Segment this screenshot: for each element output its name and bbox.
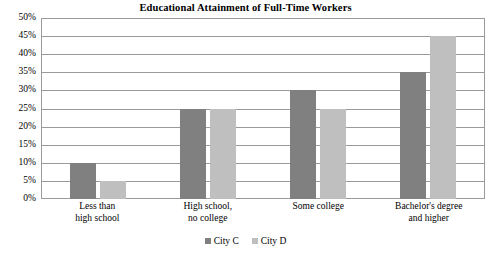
plot-area xyxy=(41,18,485,199)
bar-city-c[interactable] xyxy=(400,72,426,199)
category-label: Less thanhigh school xyxy=(42,201,153,224)
chart-title: Educational Attainment of Full-Time Work… xyxy=(0,2,491,13)
bar-group xyxy=(263,18,373,199)
legend-label: City D xyxy=(261,236,287,246)
y-axis-tick-label: 20% xyxy=(19,122,36,132)
bar-city-d[interactable] xyxy=(210,109,236,200)
category-label: Bachelor's degreeand higher xyxy=(374,201,485,224)
category-label-line: and higher xyxy=(374,213,485,225)
y-axis-tick-label: 40% xyxy=(19,49,36,59)
bar-group xyxy=(43,18,153,199)
category-label-line: Less than xyxy=(42,201,153,213)
y-axis-tick-label: 5% xyxy=(23,176,36,186)
category-label: High school,no college xyxy=(153,201,264,224)
y-axis-tick-label: 50% xyxy=(19,13,36,23)
category-label: Some college xyxy=(263,201,374,224)
legend-item-city-d[interactable]: City D xyxy=(252,236,287,246)
y-axis-tick-label: 25% xyxy=(19,104,36,114)
bar-city-d[interactable] xyxy=(100,181,126,199)
bar-city-d[interactable] xyxy=(320,109,346,200)
y-axis-labels: 50%45%40%35%30%25%20%15%10%5%0% xyxy=(0,18,36,199)
x-axis-category-labels: Less thanhigh schoolHigh school,no colle… xyxy=(42,201,484,224)
bar-city-c[interactable] xyxy=(70,163,96,199)
bar-groups xyxy=(43,18,483,199)
chart-container: Educational Attainment of Full-Time Work… xyxy=(0,0,491,258)
legend-swatch-icon xyxy=(252,238,258,244)
bar-city-c[interactable] xyxy=(180,109,206,200)
category-label-line: Bachelor's degree xyxy=(374,201,485,213)
y-axis-tick-label: 15% xyxy=(19,140,36,150)
bar-group xyxy=(153,18,263,199)
bar-city-c[interactable] xyxy=(290,90,316,199)
category-label-line: High school, xyxy=(153,201,264,213)
category-label-line: high school xyxy=(42,213,153,225)
legend-item-city-c[interactable]: City C xyxy=(205,236,239,246)
y-axis-tick-label: 30% xyxy=(19,86,36,96)
legend-label: City C xyxy=(214,236,239,246)
y-axis-tick-label: 45% xyxy=(19,31,36,41)
y-axis-tick-label: 0% xyxy=(23,194,36,204)
chart-legend: City CCity D xyxy=(0,236,491,246)
y-axis-tick-label: 10% xyxy=(19,158,36,168)
legend-swatch-icon xyxy=(205,238,211,244)
bar-city-d[interactable] xyxy=(430,36,456,199)
bar-group xyxy=(373,18,483,199)
y-axis-tick-label: 35% xyxy=(19,68,36,78)
plot-area-wrapper xyxy=(41,18,485,199)
category-label-line: no college xyxy=(153,213,264,225)
category-label-line: Some college xyxy=(263,201,374,213)
